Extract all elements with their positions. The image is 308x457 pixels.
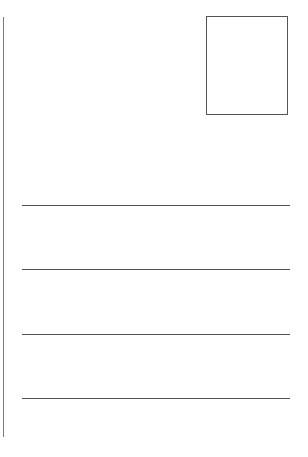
postcard-back — [0, 0, 308, 457]
address-line-3[interactable] — [22, 334, 290, 335]
address-line-1[interactable] — [22, 205, 290, 206]
message-divider-line — [3, 17, 4, 437]
stamp-box — [206, 16, 288, 115]
address-line-2[interactable] — [22, 269, 290, 270]
address-line-4[interactable] — [22, 398, 290, 399]
